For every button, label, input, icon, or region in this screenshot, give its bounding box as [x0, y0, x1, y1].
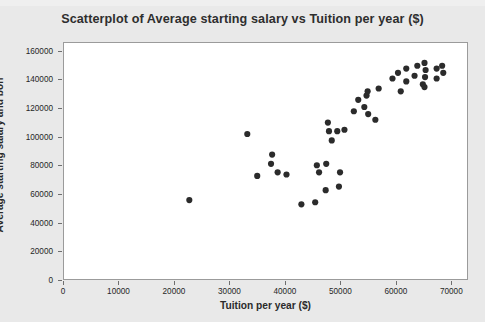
- scatter-point: [403, 78, 409, 84]
- x-tick-label: 10000: [107, 287, 130, 296]
- scatter-point: [244, 131, 250, 137]
- scatter-point: [389, 75, 395, 81]
- x-tick-label: 40000: [274, 287, 297, 296]
- y-tick-mark: [58, 79, 62, 80]
- scatter-point: [316, 169, 322, 175]
- scatter-point: [423, 67, 429, 73]
- scatter-point: [434, 75, 440, 81]
- scatter-point: [434, 66, 440, 72]
- scatter-point: [361, 104, 367, 110]
- x-tick-label: 50000: [329, 287, 352, 296]
- y-tick-mark: [58, 137, 62, 138]
- x-tick-label: 0: [61, 287, 66, 296]
- scatter-point: [314, 162, 320, 168]
- y-tick-label: 0: [0, 276, 53, 285]
- scatter-point: [336, 184, 342, 190]
- scatterplot-figure: Scatterplot of Average starting salary v…: [0, 0, 485, 322]
- scatter-point: [411, 73, 417, 79]
- x-tick-mark: [285, 281, 286, 285]
- scatter-point: [334, 128, 340, 134]
- scatter-point: [254, 173, 260, 179]
- scatter-point: [186, 197, 192, 203]
- scatter-point: [355, 97, 361, 103]
- scatter-points-layer: [64, 43, 467, 279]
- scatter-point: [326, 128, 332, 134]
- y-tick-mark: [58, 51, 62, 52]
- scatter-point: [341, 127, 347, 133]
- x-tick-mark: [174, 281, 175, 285]
- scatter-point: [403, 66, 409, 72]
- scatter-point: [439, 63, 445, 69]
- scatter-point: [325, 120, 331, 126]
- scatter-point: [323, 161, 329, 167]
- y-axis-title: Average starting salary and bon: [0, 55, 5, 255]
- scatter-point: [421, 84, 427, 90]
- x-tick-label: 70000: [440, 287, 463, 296]
- x-tick-mark: [118, 281, 119, 285]
- scatter-point: [275, 169, 281, 175]
- scatter-point: [414, 63, 420, 69]
- x-tick-label: 30000: [218, 287, 241, 296]
- scatter-point: [365, 111, 371, 117]
- scatter-point: [372, 117, 378, 123]
- y-tick-label: 20000: [0, 247, 53, 256]
- scatter-point: [283, 171, 289, 177]
- scatter-point: [398, 88, 404, 94]
- scatter-point: [268, 161, 274, 167]
- y-tick-mark: [58, 165, 62, 166]
- scatter-point: [395, 70, 401, 76]
- y-tick-label: 80000: [0, 161, 53, 170]
- plot-area: [63, 42, 468, 280]
- y-tick-label: 40000: [0, 218, 53, 227]
- x-tick-mark: [396, 281, 397, 285]
- scatter-point: [376, 85, 382, 91]
- x-tick-mark: [63, 281, 64, 285]
- chart-title: Scatterplot of Average starting salary v…: [0, 12, 485, 26]
- scatter-point: [337, 169, 343, 175]
- x-axis-title: Tuition per year ($): [63, 300, 468, 311]
- x-tick-label: 60000: [384, 287, 407, 296]
- y-tick-mark: [58, 194, 62, 195]
- y-tick-mark: [58, 280, 62, 281]
- scatter-point: [351, 108, 357, 114]
- scatter-point: [365, 88, 371, 94]
- x-tick-mark: [229, 281, 230, 285]
- y-tick-label: 120000: [0, 103, 53, 112]
- y-tick-mark: [58, 251, 62, 252]
- scatter-point: [312, 199, 318, 205]
- scatter-point: [421, 60, 427, 66]
- y-tick-label: 100000: [0, 132, 53, 141]
- y-tick-label: 60000: [0, 189, 53, 198]
- scatter-point: [329, 137, 335, 143]
- scatter-point: [323, 187, 329, 193]
- x-tick-mark: [340, 281, 341, 285]
- scatter-point: [269, 152, 275, 158]
- scatter-point: [298, 201, 304, 207]
- y-tick-mark: [58, 108, 62, 109]
- x-tick-label: 20000: [163, 287, 186, 296]
- y-tick-label: 140000: [0, 75, 53, 84]
- y-tick-mark: [58, 223, 62, 224]
- x-tick-mark: [451, 281, 452, 285]
- scatter-point: [422, 74, 428, 80]
- scatter-point: [440, 70, 446, 76]
- y-tick-label: 160000: [0, 46, 53, 55]
